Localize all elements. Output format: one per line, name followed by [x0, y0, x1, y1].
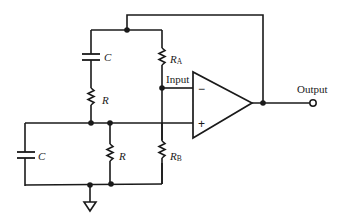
resistor-shunt	[107, 144, 113, 161]
upper-junction-node	[124, 27, 130, 33]
inverting-sign: −	[198, 82, 205, 96]
non-inverting-sign: +	[198, 117, 205, 131]
resistor-ra	[159, 48, 165, 65]
ground-icon	[84, 185, 96, 211]
rb-branch	[156, 123, 168, 184]
label-c-shunt: C	[38, 150, 46, 162]
bottom-node-right	[108, 181, 114, 187]
bottom-bus-wire	[25, 181, 162, 188]
label-ra: RA	[169, 53, 183, 66]
label-c-series: C	[104, 51, 112, 63]
circuit-diagram: C R RA Input − + Output C R	[0, 0, 355, 220]
output-node	[260, 100, 266, 106]
middle-bus-wire	[25, 120, 193, 126]
output-terminal	[310, 100, 316, 106]
shunt-resistor-branch	[107, 123, 113, 184]
middle-node-left	[88, 120, 94, 126]
resistor-series	[88, 88, 94, 105]
label-input: Input	[166, 73, 189, 85]
label-output: Output	[297, 83, 328, 95]
capacitor-series	[82, 54, 100, 60]
shunt-capacitor-branch	[17, 123, 35, 186]
label-r-shunt: R	[118, 150, 126, 162]
label-rb: RB	[169, 150, 182, 163]
upper-bus-wire	[91, 27, 162, 33]
label-r-series: R	[101, 94, 109, 106]
series-rc-branch	[82, 30, 100, 123]
feedback-wire	[127, 15, 263, 103]
